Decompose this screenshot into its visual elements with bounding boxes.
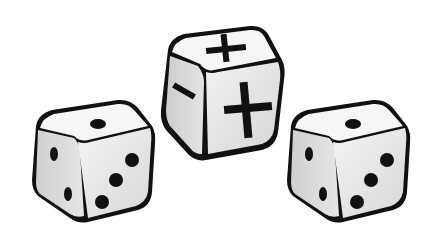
pip-icon	[345, 119, 361, 129]
pip-icon	[50, 147, 58, 161]
die-face-left	[166, 56, 204, 154]
pip-icon	[64, 187, 72, 201]
pip-icon	[125, 153, 139, 167]
pip-icon	[364, 173, 378, 187]
pip-icon	[90, 119, 106, 129]
pip-icon	[319, 187, 327, 201]
die-face-left	[291, 130, 339, 217]
die-center-fudge	[158, 24, 288, 168]
die-right-standard	[283, 96, 415, 228]
die-left-standard	[28, 96, 160, 228]
die-face-left	[36, 130, 84, 217]
pip-icon	[350, 195, 364, 209]
pip-icon	[380, 153, 394, 167]
pip-icon	[95, 195, 109, 209]
pip-icon	[109, 173, 123, 187]
pip-icon	[305, 147, 313, 161]
